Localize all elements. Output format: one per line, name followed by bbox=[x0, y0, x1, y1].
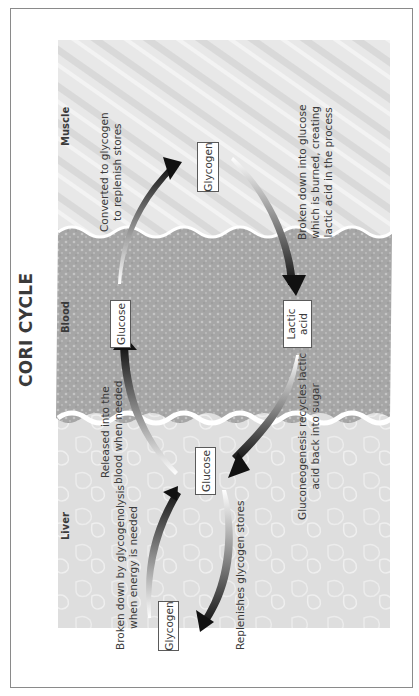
cori-cycle-artwork bbox=[0, 0, 419, 696]
note-gluconeogenesis: Gluconeogenesis recycles lactic acid bac… bbox=[296, 353, 322, 520]
node-lactic-acid: Lacticacid bbox=[283, 300, 312, 348]
note-broken-into-glucose: Broken down into glucose which is burned… bbox=[296, 105, 335, 240]
note-replenishes-glycogen: Replenishes glycogen stores bbox=[234, 501, 247, 650]
node-blood-glucose: Glucose bbox=[110, 300, 131, 348]
node-liver-glycogen: Glycogen bbox=[158, 601, 179, 651]
note-released-into-blood: Released into the blood when needed bbox=[99, 381, 125, 485]
region-label-liver: Liver bbox=[60, 512, 71, 540]
note-glycogenolysis: Broken down by glycogenolysis when energ… bbox=[114, 485, 140, 650]
diagram-title: CORI CYCLE bbox=[16, 273, 36, 387]
node-liver-glucose: Glucose bbox=[195, 447, 216, 495]
region-label-muscle: Muscle bbox=[60, 107, 71, 146]
node-muscle-glycogen: Glycogen bbox=[197, 142, 219, 192]
note-converted-to-glycogen: Converted to glycogen to replenish store… bbox=[98, 112, 124, 232]
region-label-blood: Blood bbox=[60, 301, 71, 333]
